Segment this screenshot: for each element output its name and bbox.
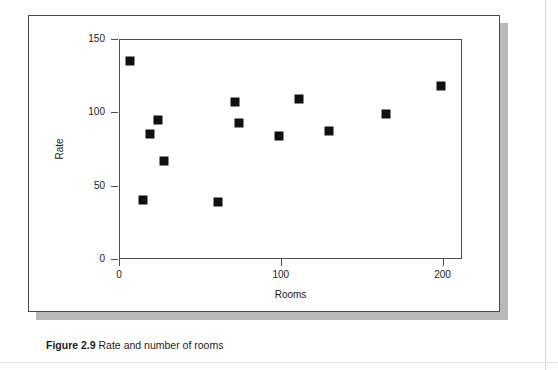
data-point	[294, 95, 303, 104]
x-tick-label: 200	[423, 269, 463, 280]
scatter-plot: 050100150 0100200 Rate Rooms	[29, 16, 501, 313]
data-point	[213, 197, 222, 206]
y-tick-label: 50	[65, 181, 105, 191]
data-point	[160, 156, 169, 165]
data-point	[231, 98, 240, 107]
figure-card: 050100150 0100200 Rate Rooms	[28, 15, 500, 312]
data-point	[325, 127, 334, 136]
y-tick-label: 100	[65, 107, 105, 117]
y-tick-mark	[111, 186, 118, 187]
x-tick-mark	[119, 259, 120, 266]
figure-caption-text: Rate and number of rooms	[99, 339, 224, 351]
data-point	[275, 131, 284, 140]
y-axis-title: Rate	[54, 138, 65, 159]
y-tick-label: 0	[65, 254, 105, 264]
y-tick-mark	[111, 259, 118, 260]
page-rule-bottom	[0, 362, 558, 363]
page-rule-right	[545, 0, 546, 370]
data-point	[234, 118, 243, 127]
data-point	[126, 57, 135, 66]
figure-caption: Figure 2.9 Rate and number of rooms	[46, 339, 223, 351]
y-tick-mark	[111, 39, 118, 40]
y-tick-label: 150	[65, 34, 105, 44]
x-tick-label: 100	[261, 269, 301, 280]
data-point	[145, 130, 154, 139]
figure-caption-label: Figure 2.9	[46, 339, 96, 351]
x-axis-title: Rooms	[119, 289, 462, 300]
x-tick-label: 0	[99, 269, 139, 280]
data-point	[436, 81, 445, 90]
y-tick-mark	[111, 112, 118, 113]
data-point	[153, 115, 162, 124]
x-tick-mark	[281, 259, 282, 266]
x-tick-mark	[443, 259, 444, 266]
data-point	[381, 109, 390, 118]
plot-frame	[119, 39, 462, 259]
data-point	[139, 196, 148, 205]
